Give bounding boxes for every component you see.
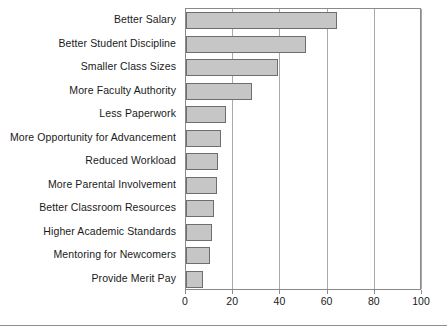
bar-chart-figure: Better SalaryBetter Student DisciplineSm… <box>0 0 447 334</box>
bar-row <box>186 268 422 292</box>
x-tick-20 <box>232 290 233 294</box>
bar[interactable] <box>186 224 212 241</box>
category-label: Mentoring for Newcomers <box>53 243 176 267</box>
bar[interactable] <box>186 59 278 76</box>
category-label: Better Student Discipline <box>59 32 176 56</box>
category-label: More Faculty Authority <box>69 79 176 103</box>
bar[interactable] <box>186 200 214 217</box>
category-label: Better Salary <box>114 8 176 32</box>
bar-row <box>186 33 422 57</box>
bar-row <box>186 244 422 268</box>
bar-row <box>186 127 422 151</box>
bar[interactable] <box>186 12 337 29</box>
category-label: More Opportunity for Advancement <box>10 126 176 150</box>
bar[interactable] <box>186 271 203 288</box>
bar-row <box>186 221 422 245</box>
bar[interactable] <box>186 130 221 147</box>
bar[interactable] <box>186 36 306 53</box>
category-label: Higher Academic Standards <box>43 220 176 244</box>
bar-row <box>186 174 422 198</box>
x-tick-40 <box>279 290 280 294</box>
x-tick-100 <box>421 290 422 294</box>
bar-row <box>186 103 422 127</box>
category-label: Provide Merit Pay <box>91 267 176 291</box>
bar[interactable] <box>186 106 226 123</box>
category-axis-labels: Better SalaryBetter Student DisciplineSm… <box>0 8 180 290</box>
value-axis: 020406080100 <box>185 290 421 314</box>
x-tick-80 <box>374 290 375 294</box>
plot-area <box>185 8 421 290</box>
bar-row <box>186 197 422 221</box>
bar-row <box>186 150 422 174</box>
x-tick-label: 60 <box>321 295 333 307</box>
category-label: More Parental Involvement <box>48 173 176 197</box>
x-tick-label: 0 <box>182 295 188 307</box>
bar[interactable] <box>186 247 210 264</box>
x-tick-label: 40 <box>274 295 286 307</box>
x-tick-60 <box>327 290 328 294</box>
category-label: Less Paperwork <box>99 102 176 126</box>
x-tick-label: 20 <box>226 295 238 307</box>
category-label: Smaller Class Sizes <box>81 55 176 79</box>
bar[interactable] <box>186 177 217 194</box>
bar[interactable] <box>186 153 218 170</box>
category-label: Better Classroom Resources <box>39 196 176 220</box>
bar-row <box>186 80 422 104</box>
bar-row <box>186 9 422 33</box>
x-tick-0 <box>185 290 186 294</box>
x-tick-label: 100 <box>412 295 430 307</box>
bottom-divider-rule <box>0 325 447 326</box>
bar[interactable] <box>186 83 252 100</box>
category-label: Reduced Workload <box>85 149 176 173</box>
x-tick-label: 80 <box>368 295 380 307</box>
bar-row <box>186 56 422 80</box>
